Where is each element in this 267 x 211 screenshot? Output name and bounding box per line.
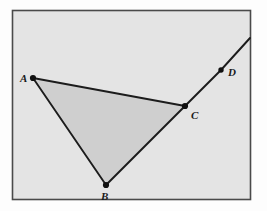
point-b-dot xyxy=(103,182,109,188)
point-d-dot xyxy=(218,67,223,72)
point-b-label: B xyxy=(100,190,108,202)
geometry-figure: A B C D xyxy=(0,0,267,211)
point-a-dot xyxy=(30,75,36,81)
diagram-canvas: A B C D xyxy=(0,0,267,211)
point-a-label: A xyxy=(19,72,27,84)
point-c-dot xyxy=(182,103,188,109)
point-c-label: C xyxy=(191,109,199,121)
point-d-label: D xyxy=(227,66,236,78)
